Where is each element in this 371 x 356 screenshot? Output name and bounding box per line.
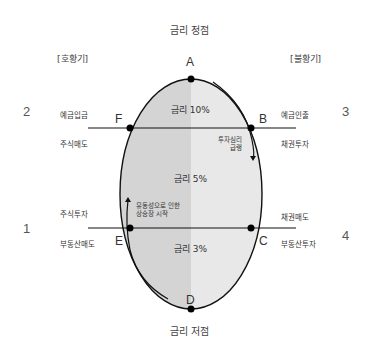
quadrant-3-lower-action: 채권투자 <box>281 138 309 149</box>
note-liquidity-line1: 유동성으로 인한 <box>136 202 180 210</box>
quadrant-3-number: 3 <box>342 104 349 119</box>
point-E-marker <box>127 225 134 232</box>
phase-boom-label: [호황기] <box>57 52 88 65</box>
note-investment-line2: 급랭 <box>218 144 242 152</box>
point-C-label: C <box>259 234 268 248</box>
point-C-marker <box>248 225 255 232</box>
point-A-label: A <box>186 55 194 69</box>
title-rate-trough: 금리 저점 <box>170 323 209 338</box>
quadrant-4-number: 4 <box>342 228 349 243</box>
quadrant-1-number: 1 <box>23 221 30 236</box>
title-rate-peak: 금리 정점 <box>170 22 209 37</box>
rate-10-label: 금리 10% <box>171 103 210 116</box>
quadrant-4-upper-action: 채권매도 <box>281 211 309 222</box>
point-B-label: B <box>259 112 267 126</box>
point-A-marker <box>188 76 195 83</box>
point-F-label: F <box>115 112 122 126</box>
phase-recession-label: [불황기] <box>290 52 321 65</box>
point-D-label: D <box>186 293 195 307</box>
rate-3-label: 금리 3% <box>174 242 207 255</box>
quadrant-3-upper-action: 예금인출 <box>281 109 309 120</box>
point-F-marker <box>127 125 134 132</box>
point-B-marker <box>248 125 255 132</box>
point-E-label: E <box>115 234 123 248</box>
note-liquidity-rally: 유동성으로 인한 상승장 시작 <box>136 202 180 218</box>
quadrant-2-number: 2 <box>23 104 30 119</box>
quadrant-1-upper-action: 주식투자 <box>60 208 88 219</box>
rate-5-label: 금리 5% <box>174 172 207 185</box>
note-liquidity-line2: 상승장 시작 <box>136 210 180 218</box>
quadrant-2-lower-action: 주식매도 <box>60 138 88 149</box>
quadrant-4-lower-action: 부동산투자 <box>281 238 316 249</box>
quadrant-1-lower-action: 부동산매도 <box>60 238 95 249</box>
note-investment-line1: 투자심리 <box>218 136 242 144</box>
quadrant-2-upper-action: 예금입금 <box>60 109 88 120</box>
note-investment-sentiment: 투자심리 급랭 <box>218 136 242 152</box>
